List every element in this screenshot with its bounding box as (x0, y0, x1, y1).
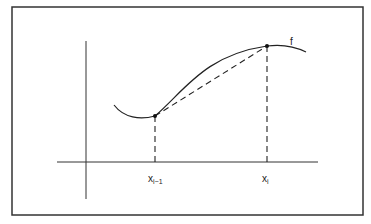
point-left (153, 114, 157, 118)
secant-line (155, 46, 267, 116)
diagram-canvas: f xi−1 xi (0, 0, 371, 224)
frame (12, 7, 363, 215)
label-x-right: xi (262, 173, 269, 185)
point-right (265, 44, 269, 48)
curve-label: f (290, 36, 293, 47)
label-x-left: xi−1 (148, 173, 163, 185)
